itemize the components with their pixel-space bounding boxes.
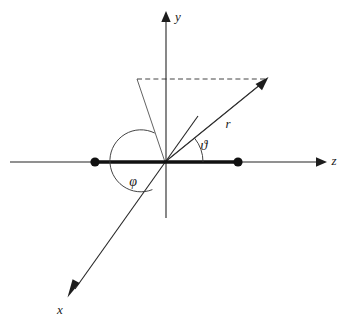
x-axis-arrowhead: [68, 279, 80, 297]
x-axis-line: [75, 116, 198, 289]
y-axis-group: y: [161, 9, 181, 218]
cone-left-edge: [137, 79, 165, 162]
r-vector-label: r: [225, 116, 231, 131]
x-axis-group: x: [56, 116, 198, 317]
z-axis-arrowhead: [316, 157, 327, 167]
r-vector-line: [165, 84, 261, 162]
r-vector-group: r: [165, 77, 269, 162]
y-axis-label: y: [173, 9, 181, 24]
figure-root: z y x r ϑ: [0, 0, 348, 324]
right-charge-dot: [233, 157, 242, 166]
theta-label: ϑ: [201, 138, 209, 153]
z-axis-label: z: [330, 153, 336, 168]
x-axis-label: x: [56, 302, 63, 317]
phi-label: φ: [129, 174, 137, 189]
left-charge-dot: [90, 157, 99, 166]
coordinate-diagram: z y x r ϑ: [0, 0, 348, 324]
y-axis-arrowhead: [161, 11, 170, 22]
